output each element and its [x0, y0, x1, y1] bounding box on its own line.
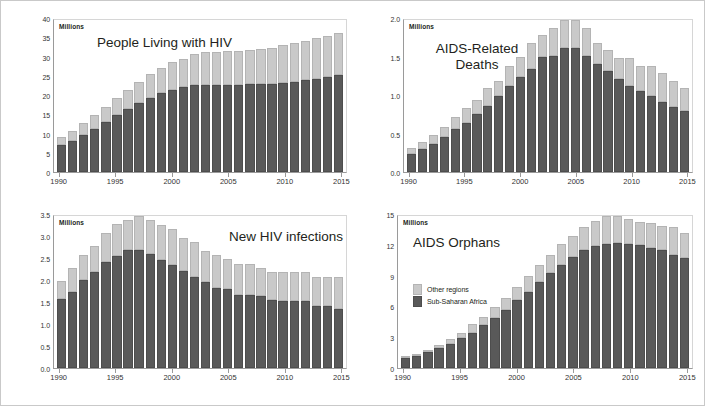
bar-2004	[212, 216, 221, 368]
bar-segment-other-regions	[582, 28, 591, 57]
bar-segment-other-regions	[602, 216, 611, 244]
chart-title: New HIV infections	[229, 229, 343, 245]
bar-2015	[680, 216, 689, 368]
bar-segment-other-regions	[646, 223, 655, 248]
bar-segment-sub-saharan-africa	[146, 98, 155, 172]
y-tick-label: 40	[42, 16, 50, 23]
bar-segment-other-regions	[245, 50, 254, 84]
bar-segment-other-regions	[212, 52, 221, 85]
bar-segment-sub-saharan-africa	[625, 86, 634, 172]
bar-2010	[278, 20, 287, 172]
y-tick-label: 20	[42, 93, 50, 100]
x-axis-ticks: 199019952000200520102015	[53, 175, 347, 191]
x-tick-label: 2005	[220, 373, 237, 382]
bar-segment-other-regions	[267, 272, 276, 299]
chart-title: AIDS Orphans	[413, 235, 500, 251]
panel-new-hiv-infections: 0.00.51.01.52.02.53.03.5 199019952000200…	[19, 209, 349, 391]
y-tick-label: 0	[46, 170, 50, 177]
bar-segment-sub-saharan-africa	[635, 245, 644, 368]
bar-segment-other-regions	[112, 98, 121, 115]
bar-segment-sub-saharan-africa	[546, 273, 555, 368]
bar-segment-sub-saharan-africa	[483, 106, 492, 172]
bar-2003	[546, 216, 555, 368]
units-label: Millions	[403, 219, 428, 226]
bar-2001	[179, 216, 188, 368]
bar-2001	[524, 216, 533, 368]
bar-segment-other-regions	[680, 233, 689, 257]
bar-segment-other-regions	[267, 48, 276, 84]
panel-aids-related-deaths: 0.00.51.01.52.0 199019952000200520102015…	[369, 13, 695, 195]
bar-segment-other-regions	[323, 277, 332, 307]
x-tick-label: 1990	[50, 177, 67, 186]
bar-2008	[602, 216, 611, 368]
x-tick-label: 2015	[679, 373, 696, 382]
bar-segment-other-regions	[624, 219, 633, 244]
bar-segment-other-regions	[614, 58, 623, 79]
bar-segment-sub-saharan-africa	[146, 254, 155, 368]
bar-segment-other-regions	[418, 142, 427, 150]
bar-segment-sub-saharan-africa	[79, 280, 88, 368]
y-tick-label: 2.0	[391, 16, 400, 23]
x-tick-label: 2015	[679, 177, 696, 186]
y-tick-label: 9	[390, 273, 394, 280]
y-tick-label: 0.0	[391, 170, 400, 177]
bar-segment-other-regions	[290, 43, 299, 81]
bar-segment-other-regions	[179, 59, 188, 88]
bar-segment-sub-saharan-africa	[657, 250, 666, 368]
bar-2015	[334, 20, 343, 172]
bar-1999	[501, 216, 510, 368]
bar-2007	[593, 20, 602, 172]
bar-segment-sub-saharan-africa	[101, 122, 110, 172]
bar-1992	[79, 20, 88, 172]
bar-segment-other-regions	[123, 220, 132, 250]
bar-segment-sub-saharan-africa	[323, 306, 332, 368]
bar-2000	[512, 216, 521, 368]
bar-segment-other-regions	[168, 62, 177, 90]
bar-segment-sub-saharan-africa	[157, 260, 166, 368]
bar-segment-sub-saharan-africa	[429, 144, 438, 172]
bar-segment-sub-saharan-africa	[134, 250, 143, 368]
bar-segment-other-regions	[440, 127, 449, 137]
bar-segment-other-regions	[538, 35, 547, 57]
bar-segment-sub-saharan-africa	[212, 288, 221, 368]
x-tick-label: 2005	[568, 177, 585, 186]
bar-segment-sub-saharan-africa	[505, 86, 514, 172]
y-tick-label: 0.0	[41, 366, 50, 373]
bar-2010	[625, 20, 634, 172]
bar-1994	[101, 216, 110, 368]
bar-segment-other-regions	[571, 20, 580, 48]
bar-1997	[134, 216, 143, 368]
bar-segment-other-regions	[79, 123, 88, 135]
x-tick-label: 2000	[508, 373, 525, 382]
bar-segment-other-regions	[593, 43, 602, 64]
chart-title: AIDS-Related Deaths	[417, 41, 537, 72]
bar-segment-other-regions	[334, 33, 343, 75]
bar-segment-sub-saharan-africa	[591, 246, 600, 368]
bar-segment-sub-saharan-africa	[301, 80, 310, 172]
y-tick-label: 10	[42, 131, 50, 138]
bar-segment-other-regions	[234, 264, 243, 295]
bar-segment-other-regions	[245, 264, 254, 295]
bar-segment-other-regions	[146, 74, 155, 98]
bar-segment-sub-saharan-africa	[256, 84, 265, 172]
bar-segment-other-regions	[635, 222, 644, 246]
y-tick-label: 5	[46, 150, 50, 157]
bar-segment-other-regions	[68, 131, 77, 141]
bar-segment-sub-saharan-africa	[636, 91, 645, 172]
bar-2009	[614, 20, 623, 172]
x-tick-label: 2010	[276, 373, 293, 382]
y-tick-label: 1.0	[391, 93, 400, 100]
bar-segment-sub-saharan-africa	[603, 71, 612, 172]
bar-segment-sub-saharan-africa	[112, 256, 121, 368]
x-tick-label: 1995	[107, 177, 124, 186]
x-tick-label: 1990	[50, 373, 67, 382]
units-label: Millions	[409, 23, 434, 30]
panel-people-living-with-hiv: 0510152025303540 19901995200020052010201…	[19, 13, 349, 195]
bar-segment-sub-saharan-africa	[593, 64, 602, 172]
bar-segment-sub-saharan-africa	[101, 262, 110, 368]
bar-2000	[168, 216, 177, 368]
bar-2014	[669, 20, 678, 172]
y-axis-ticks: 0.00.51.01.52.02.53.03.5	[19, 215, 53, 369]
y-tick-label: 6	[390, 304, 394, 311]
bar-segment-other-regions	[625, 58, 634, 86]
